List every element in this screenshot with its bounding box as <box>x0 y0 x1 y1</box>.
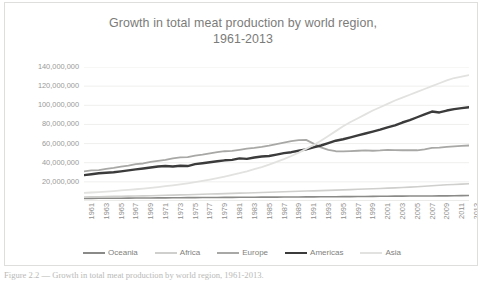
y-axis-labels: 140,000,000120,000,000100,000,00080,000,… <box>11 63 79 207</box>
legend-item-africa[interactable]: Africa <box>155 248 200 258</box>
x-axis-tick: 1979 <box>221 203 229 219</box>
x-axis-tick: 1977 <box>206 203 214 219</box>
gridlines <box>84 67 469 182</box>
legend-item-europe[interactable]: Europe <box>217 248 268 258</box>
x-axis-tick: 1973 <box>177 203 185 219</box>
legend-item-americas[interactable]: Americas <box>285 248 343 258</box>
x-axis-tick: 2005 <box>414 203 422 219</box>
chart-title-line-1: Growth in total meat production by world… <box>109 16 377 30</box>
series-line-asia <box>84 75 469 193</box>
x-axis-tick: 2001 <box>384 203 392 219</box>
chart-title: Growth in total meat production by world… <box>45 15 441 47</box>
x-axis-tick: 2003 <box>399 203 407 219</box>
y-axis-tick: 60,000,000 <box>11 140 79 148</box>
x-axis-tick: 1969 <box>147 203 155 219</box>
series-line-africa <box>84 184 469 197</box>
legend-swatch-icon <box>217 252 239 254</box>
legend-swatch-icon <box>155 252 177 254</box>
x-axis-tick: 1987 <box>281 203 289 219</box>
chart-frame: Growth in total meat production by world… <box>4 2 478 266</box>
x-axis-tick: 2013 <box>473 203 478 219</box>
legend-swatch-icon <box>83 252 105 254</box>
chart-title-line-2: 1961-2013 <box>45 31 441 47</box>
x-axis-tick: 1961 <box>88 203 96 219</box>
x-axis-tick: 1983 <box>251 203 259 219</box>
x-axis-labels: 1961196319651967196919711973197519771979… <box>84 203 474 241</box>
x-axis-tick: 1965 <box>118 203 126 219</box>
legend-item-label: Oceania <box>108 248 138 258</box>
y-axis-tick: 140,000,000 <box>11 63 79 71</box>
x-axis-tick: 1971 <box>162 203 170 219</box>
x-axis-tick: 1995 <box>340 203 348 219</box>
x-axis-tick: 1967 <box>132 203 140 219</box>
legend-item-label: Asia <box>385 248 401 258</box>
figure-container: Growth in total meat production by world… <box>0 0 485 282</box>
x-axis-tick: 1991 <box>310 203 318 219</box>
y-axis-tick: 20,000,000 <box>11 178 79 186</box>
plot-area <box>84 67 469 201</box>
x-axis-tick: 1989 <box>295 203 303 219</box>
legend-item-oceania[interactable]: Oceania <box>83 248 138 258</box>
legend-item-label: Africa <box>180 248 200 258</box>
y-axis-tick: 80,000,000 <box>11 120 79 128</box>
x-axis-tick: 1985 <box>266 203 274 219</box>
y-axis-tick: 120,000,000 <box>11 82 79 90</box>
legend-item-asia[interactable]: Asia <box>360 248 401 258</box>
plot-svg <box>84 67 469 201</box>
x-axis-tick: 1975 <box>192 203 200 219</box>
x-axis-tick: 1993 <box>325 203 333 219</box>
legend-swatch-icon <box>285 252 307 255</box>
legend-item-label: Americas <box>310 248 343 258</box>
figure-caption: Figure 2.2 — Growth in total meat produc… <box>4 269 478 281</box>
x-axis-tick: 2007 <box>429 203 437 219</box>
series-lines <box>84 75 469 198</box>
x-axis-tick: 1963 <box>103 203 111 219</box>
chart-legend: OceaniaAfricaEuropeAmericasAsia <box>5 248 478 258</box>
legend-swatch-icon <box>360 252 382 254</box>
y-axis-tick: 100,000,000 <box>11 101 79 109</box>
legend-item-label: Europe <box>242 248 268 258</box>
x-axis-tick: 1981 <box>236 203 244 219</box>
x-axis-tick: 2009 <box>443 203 451 219</box>
x-axis-tick: 2011 <box>458 203 466 219</box>
x-axis-tick: 1997 <box>355 203 363 219</box>
x-axis-tick: 1999 <box>369 203 377 219</box>
series-line-americas <box>84 107 469 175</box>
y-axis-tick: 40,000,000 <box>11 159 79 167</box>
